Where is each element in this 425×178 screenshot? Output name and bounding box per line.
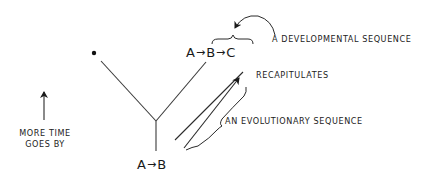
tree-left-branch (101, 61, 156, 121)
time-label: MORE TIME GOES BY (14, 128, 76, 150)
time-label-line1: MORE TIME (14, 128, 76, 139)
time-label-line2: GOES BY (14, 139, 76, 150)
arrow-right-icon: → (147, 158, 156, 172)
extinct-lineage-dot (92, 51, 96, 55)
developmental-sequence: A→B→C (186, 46, 235, 61)
tree-right-branch (156, 62, 206, 121)
seq-item-a: A (137, 157, 146, 172)
seq-item-b: B (157, 157, 166, 172)
developmental-sequence-label: A DEVELOPMENTAL SEQUENCE (272, 34, 411, 45)
ancestral-sequence: A→B (137, 158, 166, 173)
arrow-right-icon: → (196, 46, 205, 60)
arrow-right-icon: → (216, 46, 225, 60)
diagram-canvas: A→B→C A→B A DEVELOPMENTAL SEQUENCE RECAP… (0, 0, 425, 178)
developmental-pointer-arrow (235, 16, 275, 35)
developmental-brace (212, 35, 253, 44)
evolution-parallel-line (175, 72, 243, 140)
recapitulates-label: RECAPITULATES (256, 70, 329, 81)
diagram-lines (0, 0, 425, 178)
seq-item-b: B (206, 45, 215, 60)
recapitulation-arrow (184, 78, 239, 148)
seq-item-a: A (186, 45, 195, 60)
seq-item-c: C (226, 45, 235, 60)
evolutionary-sequence-label: AN EVOLUTIONARY SEQUENCE (225, 116, 363, 127)
